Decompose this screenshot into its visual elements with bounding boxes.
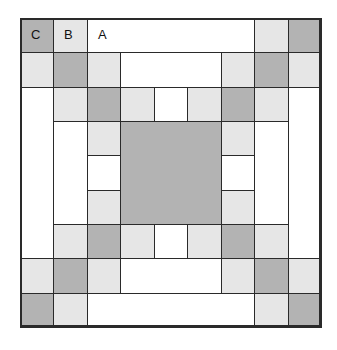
quilt-piece-light: B xyxy=(53,18,88,53)
quilt-piece-light xyxy=(87,121,121,156)
quilt-piece-white: A xyxy=(87,18,255,53)
quilt-piece-light xyxy=(87,52,121,88)
quilt-piece-white xyxy=(288,87,322,259)
quilt-piece-light xyxy=(254,224,289,259)
quilt-piece-white xyxy=(120,258,222,294)
quilt-piece-light xyxy=(87,258,121,294)
quilt-piece-white xyxy=(53,121,88,225)
quilt-piece-light xyxy=(288,52,322,88)
quilt-piece-dark xyxy=(221,87,255,122)
quilt-piece-dark xyxy=(53,52,88,88)
quilt-piece-light xyxy=(221,190,255,225)
quilt-piece-light xyxy=(120,87,155,122)
quilt-piece-white xyxy=(254,121,289,225)
quilt-piece-white xyxy=(87,293,255,328)
quilt-block-diagram: CBA xyxy=(20,18,321,327)
quilt-piece-light xyxy=(221,52,255,88)
quilt-piece-light xyxy=(254,18,289,53)
quilt-piece-dark xyxy=(53,258,88,294)
quilt-piece-dark xyxy=(288,293,322,328)
quilt-piece-dark xyxy=(254,258,289,294)
quilt-piece-light xyxy=(254,87,289,122)
quilt-piece-light xyxy=(20,52,54,88)
quilt-piece-white xyxy=(120,52,222,88)
piece-label-a: A xyxy=(98,27,107,42)
quilt-piece-light xyxy=(254,293,289,328)
quilt-piece-light xyxy=(53,87,88,122)
quilt-piece-dark xyxy=(87,224,121,259)
quilt-piece-white xyxy=(154,87,188,122)
quilt-piece-light xyxy=(288,258,322,294)
quilt-piece-light xyxy=(221,121,255,156)
quilt-piece-white xyxy=(154,224,188,259)
quilt-piece-light xyxy=(221,258,255,294)
quilt-piece-light xyxy=(53,224,88,259)
quilt-piece-dark xyxy=(254,52,289,88)
quilt-piece-light xyxy=(187,224,222,259)
quilt-piece-dark xyxy=(221,224,255,259)
piece-label-b: B xyxy=(64,27,73,42)
quilt-piece-dark xyxy=(120,121,222,225)
quilt-piece-dark xyxy=(20,293,54,328)
quilt-piece-dark: C xyxy=(20,18,54,53)
piece-label-c: C xyxy=(31,27,40,42)
quilt-piece-dark xyxy=(288,18,322,53)
quilt-piece-light xyxy=(187,87,222,122)
quilt-piece-light xyxy=(20,258,54,294)
quilt-piece-light xyxy=(53,293,88,328)
quilt-piece-white xyxy=(20,87,54,259)
quilt-piece-dark xyxy=(87,87,121,122)
quilt-piece-white xyxy=(87,155,121,191)
quilt-piece-white xyxy=(221,155,255,191)
quilt-piece-light xyxy=(87,190,121,225)
quilt-piece-light xyxy=(120,224,155,259)
